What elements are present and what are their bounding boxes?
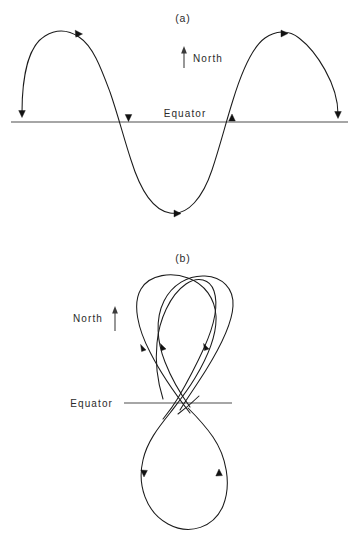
panel-b-equator-label: Equator [70, 398, 113, 409]
first-crest-marker [75, 30, 82, 37]
right-loop-descent-marker [204, 343, 209, 350]
south-loop-right-marker [216, 469, 223, 476]
panel-b-outer-left-track [137, 275, 228, 530]
panel-b: (b) North Equator [70, 252, 233, 529]
panel-a-caption: (a) [175, 12, 191, 24]
panel-a: (a) North Equator [11, 12, 348, 217]
end-marker [335, 112, 342, 119]
panel-b-north-label: North [73, 313, 103, 324]
second-crest-marker [281, 30, 288, 37]
inner-loop-descent-marker [160, 344, 166, 351]
ascending-node-marker [229, 114, 236, 121]
figure-root: (a) North Equator [0, 0, 359, 542]
panel-a-direction-markers [19, 30, 342, 217]
ground-track-figure: (a) North Equator [0, 0, 359, 542]
panel-b-caption: (b) [175, 252, 191, 264]
trough-marker [174, 210, 181, 217]
north-arrow-icon [181, 46, 187, 68]
panel-a-north-label: North [193, 53, 223, 64]
start-marker [19, 111, 26, 118]
south-loop-left-marker [141, 470, 148, 477]
panel-b-outer-right-track [158, 276, 233, 410]
descending-node-marker [125, 115, 132, 122]
north-arrow-icon [112, 306, 118, 331]
left-loop-descent-marker [141, 344, 146, 351]
panel-a-equator-label: Equator [164, 108, 207, 119]
